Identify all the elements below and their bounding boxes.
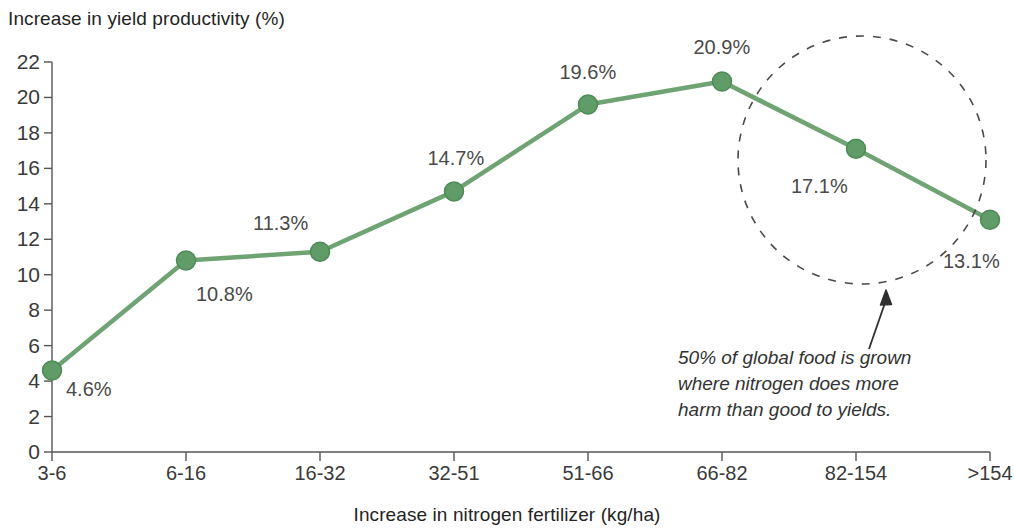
y-tick-label-18: 18 [0,121,40,145]
data-point-0 [43,361,62,380]
data-point-7 [981,210,1000,229]
y-tick-label-8: 8 [0,298,40,322]
y-tick-label-0: 0 [0,440,40,464]
x-tick-label-4: 51-66 [562,462,613,485]
data-point-label-6: 17.1% [791,175,848,198]
data-point-label-4: 19.6% [560,61,617,84]
data-point-4 [579,95,598,114]
y-tick-label-2: 2 [0,405,40,429]
y-tick-label-20: 20 [0,85,40,109]
annotation-text: 50% of global food is grown where nitrog… [678,345,938,423]
chart-container: Increase in yield productivity (%) 02468… [0,0,1014,530]
y-tick-label-4: 4 [0,369,40,393]
data-point-label-0: 4.6% [66,378,112,401]
y-tick-label-6: 6 [0,334,40,358]
x-tick-label-5: 66-82 [696,462,747,485]
data-point-5 [713,72,732,91]
plot-area [0,0,1014,530]
annotation-line-3: harm than good to yields. [678,397,938,423]
y-tick-label-14: 14 [0,192,40,216]
x-tick-label-3: 32-51 [428,462,479,485]
y-tick-label-22: 22 [0,50,40,74]
data-point-2 [311,242,330,261]
y-tick-label-10: 10 [0,263,40,287]
line-series [43,72,1000,380]
x-tick-label-2: 16-32 [294,462,345,485]
data-point-label-5: 20.9% [694,36,751,59]
annotation-line-1: 50% of global food is grown [678,345,938,371]
annotation-arrow [869,290,892,349]
annotation-line-2: where nitrogen does more [678,371,938,397]
x-tick-label-6: 82-154 [825,462,887,485]
x-tick-label-0: 3-6 [38,462,67,485]
x-tick-label-1: 6-16 [166,462,206,485]
data-point-6 [847,139,866,158]
data-point-label-1: 10.8% [196,283,253,306]
y-tick-label-12: 12 [0,227,40,251]
data-point-label-7: 13.1% [943,250,1000,273]
data-point-label-3: 14.7% [428,147,485,170]
x-tick-label-7: >154 [967,462,1012,485]
data-point-label-2: 11.3% [253,212,308,235]
y-tick-label-16: 16 [0,156,40,180]
highlight-circle [738,36,986,284]
x-axis-title: Increase in nitrogen fertilizer (kg/ha) [0,504,1014,526]
data-point-1 [177,251,196,270]
data-point-3 [445,182,464,201]
